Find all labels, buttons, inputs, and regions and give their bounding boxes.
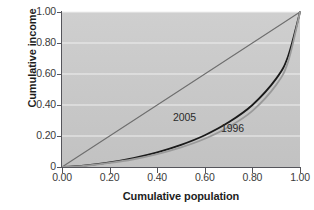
y-tick-mark	[57, 74, 62, 75]
series-line-line-of-equality	[62, 12, 300, 167]
x-axis-line	[61, 167, 301, 168]
series-paths	[62, 12, 300, 167]
y-tick-mark	[57, 136, 62, 137]
y-tick-mark	[57, 12, 62, 13]
x-tick-label: 1.00	[280, 171, 314, 183]
y-axis-title: Cumulative income	[26, 0, 38, 138]
x-tick-label: 0.80	[232, 171, 272, 183]
x-tick-label: 0.00	[42, 171, 82, 183]
series-label-2005: 2005	[173, 111, 196, 123]
x-axis-title: Cumulative population	[62, 190, 300, 202]
x-tick-label: 0.20	[90, 171, 130, 183]
y-axis-line	[61, 11, 62, 168]
lorenz-curve-chart: 1.000.800.600.400.200 0.000.200.400.600.…	[0, 0, 314, 210]
series-label-1996: 1996	[221, 122, 244, 134]
x-tick-label: 0.60	[185, 171, 225, 183]
x-tick-label: 0.40	[137, 171, 177, 183]
y-tick-mark	[57, 105, 62, 106]
y-tick-mark	[57, 43, 62, 44]
